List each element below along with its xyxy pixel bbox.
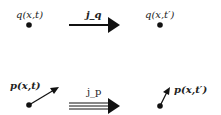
arrow-jp-head: [108, 98, 120, 114]
arrow-jq-head: [108, 17, 120, 33]
label-jq: j_q: [86, 9, 102, 20]
label-jp: j_p: [87, 86, 102, 97]
label-p-tprime: p(x,t′): [174, 84, 207, 95]
label-q-tprime: q(x,t′): [145, 9, 174, 20]
vector-p-t-head: [50, 87, 59, 94]
point-q-tprime: [157, 22, 163, 28]
label-p-t: p(x,t): [10, 80, 41, 91]
label-q-t: q(x,t): [16, 9, 43, 20]
point-q-t: [26, 22, 32, 28]
